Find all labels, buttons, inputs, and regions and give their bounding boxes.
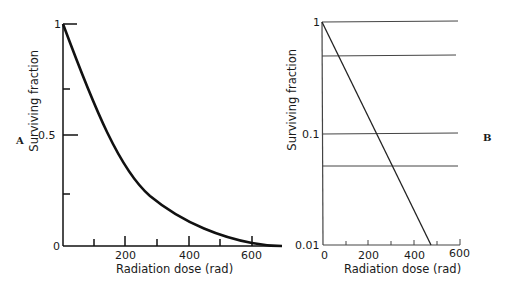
panel-b-y-axis — [322, 22, 323, 245]
panel-b-plot — [322, 21, 460, 245]
panel-a-survival-curve — [63, 24, 282, 246]
figure-canvas — [0, 0, 506, 285]
panel-a-xtick-label-200: 200 — [115, 250, 136, 261]
panel-b-letter: B — [483, 133, 491, 143]
panel-a-letter: A — [16, 136, 24, 146]
panel-b-gridline-1 — [322, 21, 458, 22]
panel-b-ytick-label-1: 1 — [313, 17, 320, 28]
panel-a-plot — [63, 24, 282, 246]
panel-b-x-axis-title: Radiation dose (rad) — [344, 264, 461, 276]
panel-b-gridline-0.5 — [322, 55, 456, 56]
panel-a-x-axis-title: Radiation dose (rad) — [116, 264, 233, 276]
panel-b-xtick-label-600: 600 — [449, 248, 470, 259]
panel-a-ytick-label-0: 0 — [53, 241, 60, 252]
panel-b-ytick-label-0.1: 0.1 — [302, 129, 320, 140]
panel-b-xtick-label-0: 0 — [321, 250, 328, 261]
panel-b-xtick-label-200: 200 — [358, 250, 379, 261]
panel-a-xtick-label-400: 400 — [179, 250, 200, 261]
panel-a-xtick-label-600: 600 — [241, 250, 262, 261]
panel-b-xtick-label-400: 400 — [404, 250, 425, 261]
panel-a-ytick-label-0.5: 0.5 — [38, 130, 56, 141]
panel-a-ytick-label-1: 1 — [54, 19, 61, 30]
panel-b-y-axis-title: Surviving fraction — [287, 45, 299, 155]
panel-b-gridline-0.1 — [322, 133, 458, 134]
panel-b-ytick-label-0.01: 0.01 — [295, 240, 320, 251]
